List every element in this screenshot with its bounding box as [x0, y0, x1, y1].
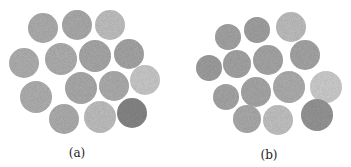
- particle-disc: [99, 71, 129, 101]
- particle-disc: [95, 10, 125, 40]
- figure-canvas: [0, 0, 351, 167]
- particle-disc: [273, 71, 305, 103]
- particle-disc: [49, 104, 79, 134]
- panel-a-caption: (a): [69, 146, 86, 160]
- particle-disc: [215, 24, 241, 50]
- particle-disc: [213, 84, 239, 110]
- particle-disc: [9, 48, 39, 78]
- particle-disc: [244, 17, 270, 43]
- particle-disc: [223, 50, 251, 78]
- particle-disc: [233, 105, 261, 133]
- particle-disc: [276, 12, 306, 42]
- particle-disc: [114, 39, 144, 69]
- panel-b: [196, 12, 342, 135]
- particle-disc: [62, 10, 92, 40]
- particle-disc: [301, 99, 333, 131]
- particle-disc: [20, 81, 52, 113]
- particle-disc: [45, 43, 77, 75]
- particle-disc: [130, 65, 160, 95]
- particle-disc: [28, 13, 58, 43]
- particle-disc: [290, 40, 320, 70]
- particle-disc: [84, 101, 116, 133]
- panel-b-caption: (b): [260, 148, 277, 162]
- particle-disc: [310, 71, 342, 103]
- particle-disc: [263, 105, 293, 135]
- particle-disc: [79, 40, 111, 72]
- particle-disc: [253, 45, 283, 75]
- particle-disc: [196, 55, 222, 81]
- particle-disc: [65, 72, 97, 104]
- particle-disc: [241, 77, 271, 107]
- particle-disc: [117, 98, 147, 128]
- panel-a: [9, 10, 160, 134]
